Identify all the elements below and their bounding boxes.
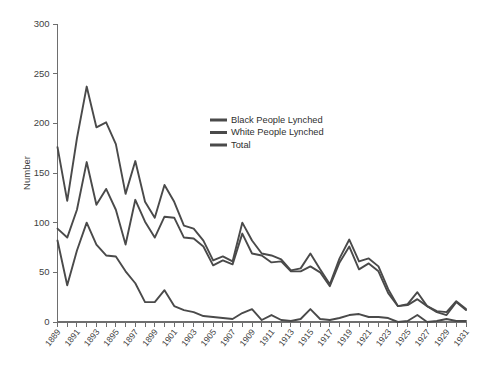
y-tick-label-50: 50 (39, 266, 50, 277)
series-line-black-people-lynched (58, 162, 467, 315)
series-line-white-people-lynched (58, 223, 467, 322)
x-tick-label-1931: 1931 (451, 327, 471, 348)
y-tick-label-250: 250 (34, 68, 50, 79)
x-tick-label-1915: 1915 (296, 327, 316, 348)
x-tick-label-1919: 1919 (335, 327, 355, 348)
x-tick-label-1891: 1891 (62, 327, 82, 348)
x-tick-label-1911: 1911 (257, 327, 276, 348)
legend-label-0: Black People Lynched (231, 115, 323, 125)
x-tick-label-1909: 1909 (237, 327, 257, 348)
x-tick-label-1903: 1903 (179, 327, 199, 348)
chart-legend: Black People LynchedWhite People Lynched… (210, 115, 324, 150)
x-tick-label-1923: 1923 (374, 327, 394, 348)
x-tick-label-1889: 1889 (43, 327, 63, 348)
x-tick-label-1893: 1893 (82, 327, 102, 348)
x-tick-label-1917: 1917 (315, 327, 335, 348)
chart-canvas: 050100150200250300 188918911893189518971… (0, 0, 498, 368)
lynching-statistics-line-chart: 050100150200250300 188918911893189518971… (0, 0, 498, 368)
x-tick-label-1901: 1901 (160, 327, 180, 348)
x-tick-label-1897: 1897 (121, 327, 141, 348)
y-tick-label-200: 200 (34, 117, 50, 128)
x-axis: 1889189118931895189718991901190319051907… (43, 322, 471, 348)
y-tick-label-0: 0 (44, 316, 49, 327)
x-tick-label-1895: 1895 (101, 327, 121, 348)
x-tick-label-1921: 1921 (354, 327, 374, 348)
legend-label-1: White People Lynched (231, 127, 324, 137)
x-tick-label-1899: 1899 (140, 327, 160, 348)
y-tick-label-100: 100 (34, 217, 50, 228)
y-axis-title: Number (21, 156, 32, 190)
y-axis: 050100150200250300 (34, 18, 58, 327)
x-tick-label-1905: 1905 (199, 327, 219, 348)
x-tick-label-1907: 1907 (218, 327, 238, 348)
x-tick-label-1913: 1913 (276, 327, 296, 348)
x-tick-label-1925: 1925 (393, 327, 413, 348)
legend-label-2: Total (231, 140, 251, 150)
y-tick-label-150: 150 (34, 167, 50, 178)
x-tick-label-1927: 1927 (413, 327, 433, 348)
x-tick-label-1929: 1929 (432, 327, 452, 348)
y-tick-label-300: 300 (34, 18, 50, 29)
